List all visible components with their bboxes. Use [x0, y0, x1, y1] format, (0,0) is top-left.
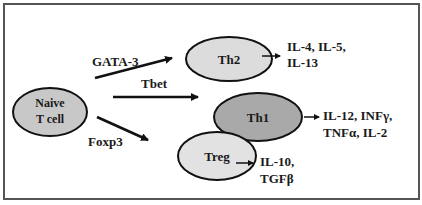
- edge-foxp3: Foxp3: [88, 117, 148, 149]
- cytokines-treg-line1: IL-10,: [260, 154, 294, 169]
- node-treg: Treg: [178, 132, 256, 180]
- node-label-th2: Th2: [218, 52, 240, 67]
- node-label-th1: Th1: [247, 110, 269, 125]
- edge-label-tbet: Tbet: [141, 76, 168, 91]
- cytokines-th1-line1: IL-12, INFγ,: [323, 108, 392, 123]
- edge-tbet: Tbet: [113, 76, 198, 97]
- output-th2: IL-4, IL-5, IL-13: [262, 39, 346, 70]
- cytokines-th2-line1: IL-4, IL-5,: [287, 39, 346, 54]
- node-naive-t-cell: Naive T cell: [13, 88, 87, 136]
- edge-gata3: GATA-3: [92, 54, 172, 78]
- output-th1: IL-12, INFγ, TNFα, IL-2: [304, 108, 392, 140]
- cytokines-treg-line2: TGFβ: [260, 171, 294, 186]
- cytokines-th1-line2: TNFα, IL-2: [323, 125, 387, 140]
- node-label-naive-line1: Naive: [35, 96, 65, 110]
- node-th2: Th2: [186, 37, 272, 81]
- edge-label-foxp3: Foxp3: [88, 134, 123, 149]
- node-label-naive-line2: T cell: [36, 112, 65, 126]
- edge-label-gata3: GATA-3: [92, 54, 139, 69]
- node-label-treg: Treg: [204, 149, 230, 164]
- cytokines-th2-line2: IL-13: [287, 55, 319, 70]
- diagram-canvas: GATA-3 Tbet Foxp3 Naive T cell Th2 Th1 T…: [0, 0, 422, 205]
